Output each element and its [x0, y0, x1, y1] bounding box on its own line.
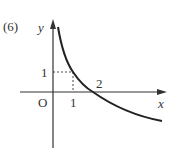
y-axis-arrow-icon — [50, 19, 56, 29]
y-tick-1: 1 — [41, 65, 48, 80]
x-tick-1: 1 — [70, 95, 77, 110]
x-intercept-label: 2 — [96, 76, 103, 91]
y-axis-label: y — [36, 20, 44, 35]
origin-label: O — [38, 95, 47, 110]
function-graph: (6) x y O 1 1 2 — [0, 0, 177, 154]
problem-label: (6) — [3, 19, 18, 34]
x-axis-label: x — [157, 96, 164, 111]
x-axis-arrow-icon — [157, 89, 167, 95]
